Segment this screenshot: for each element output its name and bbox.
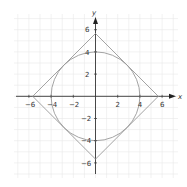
x-tick-label: −4 [47, 101, 58, 109]
x-tick-label: −2 [69, 101, 79, 109]
y-tick-label: 4 [85, 49, 90, 57]
x-axis-arrow-icon [169, 94, 176, 99]
x-axis-label: x [177, 93, 183, 101]
coordinate-plane: x y −6 −4 −2 2 4 6 6 4 2 −2 −4 −6 [0, 0, 187, 187]
y-tick-label: −4 [81, 137, 92, 145]
diagram: x y −6 −4 −2 2 4 6 6 4 2 −2 −4 −6 [0, 0, 187, 187]
x-tick-label: −6 [25, 101, 36, 109]
y-tick-label: −6 [81, 160, 92, 168]
y-axis-label: y [91, 9, 97, 17]
y-tick-label: 6 [85, 26, 90, 34]
y-tick-label: 2 [85, 71, 89, 79]
y-axis-arrow-icon [93, 17, 98, 24]
x-tick-label: 4 [138, 101, 143, 109]
x-tick-label: 6 [160, 101, 165, 109]
x-tick-label: 2 [116, 101, 120, 109]
y-tick-label: −2 [81, 115, 91, 123]
